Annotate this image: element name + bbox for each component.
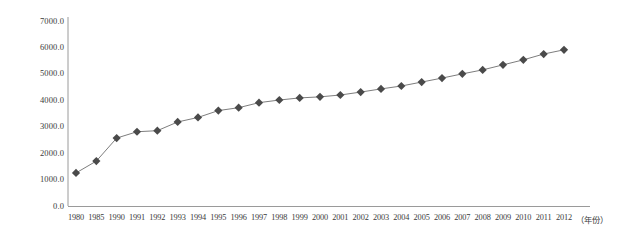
line-chart: 7000.06000.05000.04000.03000.02000.01000…: [0, 0, 622, 236]
x-axis-tick-label: 2003: [373, 213, 389, 222]
x-axis-tick-label: 1993: [170, 213, 186, 222]
x-axis-tick-label: 1997: [251, 213, 267, 222]
x-axis-tick-label: 1991: [129, 213, 145, 222]
x-axis-tick-label: 2007: [454, 213, 470, 222]
x-axis-tick-label: 1990: [109, 213, 125, 222]
x-axis-tick-label: 1994: [190, 213, 206, 222]
x-axis-tick-label: 1998: [271, 213, 287, 222]
x-axis-tick-label: 2005: [414, 213, 430, 222]
x-axis-tick-label: 2008: [475, 213, 491, 222]
x-axis-tick-label: 2009: [495, 213, 511, 222]
x-axis-tick-label: 2011: [536, 213, 552, 222]
x-axis-tick-label: 1985: [88, 213, 104, 222]
x-axis-tick-labels: 1980198519901991199219931994199519961997…: [0, 0, 622, 236]
x-axis-tick-label: 2010: [515, 213, 531, 222]
x-axis-tick-label: 1992: [149, 213, 165, 222]
x-axis-tick-label: 2001: [332, 213, 348, 222]
x-axis-tick-label: 2006: [434, 213, 450, 222]
x-axis-tick-label: 2012: [556, 213, 572, 222]
x-axis-tick-label: 2002: [353, 213, 369, 222]
x-axis-title: （年份）: [576, 213, 608, 225]
x-axis-tick-label: 1996: [231, 213, 247, 222]
x-axis-tick-label: 1995: [210, 213, 226, 222]
x-axis-tick-label: 1999: [292, 213, 308, 222]
x-axis-tick-label: 1980: [68, 213, 84, 222]
x-axis-tick-label: 2004: [393, 213, 409, 222]
x-axis-tick-label: 2000: [312, 213, 328, 222]
